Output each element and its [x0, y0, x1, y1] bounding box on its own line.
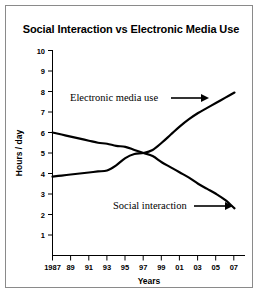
x-tick-label-93: 93 — [103, 263, 111, 272]
annotation-social-interaction: Social interaction — [113, 200, 233, 211]
annotation-electronic-media-use: Electronic media use — [70, 92, 209, 103]
chart-title: Social Interaction vs Electronic Media U… — [23, 23, 240, 35]
x-tick-label-07: 07 — [230, 263, 238, 272]
chart-figure: Social Interaction vs Electronic Media U… — [0, 0, 262, 297]
line-chart: Social Interaction vs Electronic Media U… — [0, 0, 262, 297]
x-axis-label: Years — [138, 276, 161, 286]
x-tick-label-97: 97 — [139, 263, 147, 272]
x-tick-label-99: 99 — [157, 263, 165, 272]
y-tick-label-1: 1 — [41, 231, 45, 240]
x-tick-label-91: 91 — [85, 263, 93, 272]
series-line-electronic-media-use — [53, 93, 235, 177]
annotation-arrow-head-electronic — [201, 94, 209, 102]
y-axis-ticks — [48, 51, 53, 236]
y-tick-label-3: 3 — [41, 190, 45, 199]
y-axis-label: Hours / day — [14, 130, 24, 177]
series-line-social-interaction — [53, 133, 235, 209]
y-tick-label-2: 2 — [41, 211, 45, 220]
y-tick-label-5: 5 — [41, 149, 45, 158]
y-tick-label-7: 7 — [41, 108, 45, 117]
y-tick-label-8: 8 — [41, 88, 45, 97]
y-tick-label-9: 9 — [41, 67, 45, 76]
x-axis-ticks — [53, 256, 234, 261]
y-tick-label-4: 4 — [41, 170, 46, 179]
x-tick-label-1987: 1987 — [44, 263, 61, 272]
x-tick-label-89: 89 — [66, 263, 74, 272]
x-axis-tick-labels: 1987 89 91 93 95 97 99 01 03 05 07 — [44, 263, 238, 272]
x-tick-label-03: 03 — [193, 263, 201, 272]
y-tick-label-6: 6 — [41, 129, 45, 138]
y-tick-label-10: 10 — [37, 47, 45, 56]
annotation-label-social-interaction: Social interaction — [113, 200, 188, 211]
y-axis-tick-labels: 10 9 8 7 6 5 4 3 2 1 — [37, 47, 46, 241]
x-tick-label-05: 05 — [212, 263, 220, 272]
x-tick-label-01: 01 — [175, 263, 183, 272]
x-tick-label-95: 95 — [121, 263, 129, 272]
annotation-label-electronic-media-use: Electronic media use — [70, 92, 158, 103]
